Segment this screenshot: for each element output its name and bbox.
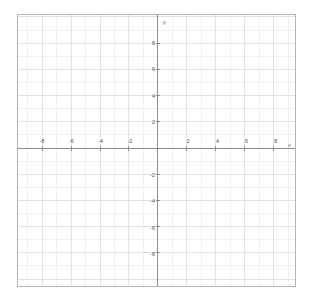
y-tick-label-4: -2 <box>150 173 155 178</box>
y-tick-label-1: 6 <box>152 67 155 72</box>
y-tick-label-0: 8 <box>152 41 155 46</box>
x-tick-label-6: 6 <box>245 139 248 144</box>
y-tick-label-2: 4 <box>152 94 155 99</box>
x-tick-label-1: -6 <box>69 139 74 144</box>
axis-lines <box>18 15 295 286</box>
y-axis-label: y <box>163 20 166 26</box>
x-axis-label: x <box>288 143 291 149</box>
x-tick-label-4: 2 <box>187 139 190 144</box>
x-tick-label-2: -4 <box>98 139 103 144</box>
y-tick-label-6: -6 <box>150 226 155 231</box>
coordinate-grid-graph[interactable]: -8-6-4-224688642-2-4-6-8 x y <box>0 0 314 302</box>
x-tick-label-0: -8 <box>40 139 45 144</box>
x-tick-label-5: 4 <box>216 139 219 144</box>
y-tick-label-3: 2 <box>152 120 155 125</box>
y-tick-label-7: -8 <box>150 252 155 257</box>
y-tick-label-5: -4 <box>150 199 155 204</box>
plot-frame[interactable]: -8-6-4-224688642-2-4-6-8 x y <box>17 14 296 287</box>
x-tick-label-7: 8 <box>274 139 277 144</box>
x-tick-label-3: -2 <box>127 139 132 144</box>
